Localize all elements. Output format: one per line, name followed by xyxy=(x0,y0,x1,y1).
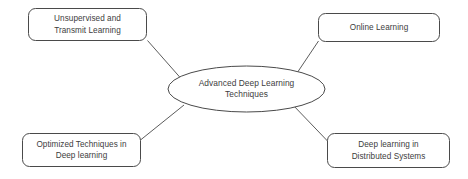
connector-unsupervised-to-center xyxy=(148,41,182,79)
node-box-optimized-techniques-in-deep-learning[interactable] xyxy=(23,134,141,167)
diagram-svg xyxy=(0,0,468,179)
node-box-deep-learning-in-distributed-systems[interactable] xyxy=(328,134,450,168)
node-box-online-learning[interactable] xyxy=(319,14,440,42)
diagram-canvas: Advanced Deep Learning Techniques Unsupe… xyxy=(0,0,468,179)
node-box-unsupervised-and-transmit-learning[interactable] xyxy=(29,9,147,41)
connector-distributed-to-center xyxy=(292,104,328,141)
center-node-ellipse[interactable] xyxy=(168,66,325,112)
connector-optimized-to-center xyxy=(141,105,185,140)
